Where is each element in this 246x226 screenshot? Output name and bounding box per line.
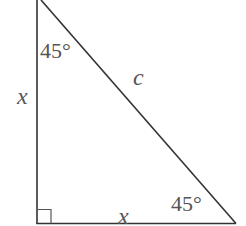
bottom-side-label: x <box>117 203 129 226</box>
bottom-right-angle-label: 45° <box>171 191 202 216</box>
triangle-diagram: 45° 45° x x c <box>0 0 246 226</box>
right-angle-marker <box>37 210 51 224</box>
left-side-label: x <box>16 83 28 109</box>
hypotenuse <box>41 0 236 224</box>
hypotenuse-label: c <box>133 64 144 90</box>
top-angle-label: 45° <box>40 38 71 63</box>
